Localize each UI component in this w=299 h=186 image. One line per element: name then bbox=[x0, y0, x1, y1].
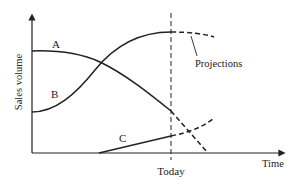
x-axis-label: Time bbox=[262, 158, 284, 169]
curve-a-label: A bbox=[52, 38, 60, 50]
today-label: Today bbox=[157, 165, 185, 177]
curve-c-projected bbox=[171, 118, 214, 136]
projections-pointer bbox=[191, 36, 197, 56]
product-lifecycle-diagram: A B C Projections Today Time Sales volum… bbox=[0, 0, 299, 186]
curve-a-actual bbox=[32, 51, 171, 111]
curve-b-label: B bbox=[51, 88, 58, 100]
projections-label: Projections bbox=[195, 58, 242, 69]
curve-c-label: C bbox=[119, 132, 126, 144]
y-axis-label: Sales volume bbox=[13, 54, 24, 111]
curve-b-projected bbox=[171, 32, 214, 37]
curve-c-actual bbox=[99, 136, 171, 153]
